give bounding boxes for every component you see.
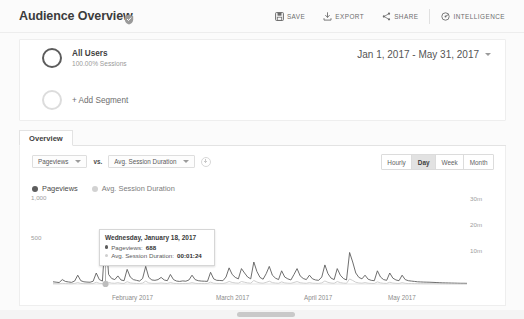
save-icon (275, 12, 284, 21)
add-segment-button[interactable]: + Add Segment (42, 90, 128, 110)
tab-overview-label: Overview (29, 134, 63, 143)
export-button[interactable]: EXPORT (314, 12, 373, 21)
legend-item-pageviews[interactable]: Pageviews (32, 184, 78, 193)
segment-bar: All Users 100.00% Sessions + Add Segment… (19, 39, 506, 121)
granularity-week[interactable]: Week (436, 155, 464, 169)
date-range-label: Jan 1, 2017 - May 31, 2017 (357, 49, 479, 60)
tab-strip: Overview (19, 130, 506, 146)
tooltip-duration-label: Avg. Session Duration: (111, 252, 174, 259)
tooltip-dot-pageviews-icon (105, 245, 108, 248)
granularity-month[interactable]: Month (464, 155, 493, 169)
intelligence-icon (441, 12, 450, 21)
save-button[interactable]: SAVE (266, 12, 314, 21)
shield-icon (124, 11, 134, 22)
share-button[interactable]: SHARE (373, 12, 427, 21)
intelligence-label: INTELLIGENCE (453, 13, 505, 20)
chart-legend: Pageviews Avg. Session Duration (32, 184, 175, 193)
segment-name: All Users (72, 48, 127, 59)
tooltip-dot-duration-icon (105, 254, 108, 257)
granularity-group: Hourly Day Week Month (381, 154, 494, 170)
tooltip-row-pageviews: Pageviews: 688 (105, 244, 209, 251)
scrollbar-thumb[interactable] (237, 312, 295, 317)
horizontal-scrollbar[interactable] (0, 310, 524, 319)
tooltip-date: Wednesday, January 18, 2017 (105, 234, 209, 241)
legend-dot-pageviews-icon (32, 186, 38, 192)
segment-all-users[interactable]: All Users 100.00% Sessions (42, 48, 127, 69)
primary-metric-select[interactable]: Pageviews (32, 155, 87, 168)
analytics-page: Audience Overview SAVE (0, 0, 524, 319)
x-axis-tick-april: April 2017 (304, 294, 332, 301)
tooltip-row-duration: Avg. Session Duration: 00:01:24 (105, 252, 209, 259)
share-label: SHARE (394, 13, 418, 20)
granularity-day[interactable]: Day (412, 155, 436, 169)
chart-panel: Pageviews vs. Avg. Session Duration Hour… (19, 146, 506, 306)
secondary-metric-label: Avg. Session Duration (114, 158, 176, 165)
tooltip-pageviews-label: Pageviews: (111, 244, 143, 251)
add-segment-label: + Add Segment (72, 96, 128, 105)
header-actions: SAVE EXPORT (266, 8, 514, 25)
export-icon (323, 12, 332, 21)
tooltip-pageviews-value: 688 (146, 244, 156, 251)
primary-metric-label: Pageviews (38, 158, 68, 165)
segment-all-users-text: All Users 100.00% Sessions (72, 48, 127, 69)
chart-svg (20, 194, 507, 294)
header-divider (429, 9, 430, 24)
x-axis: February 2017 March 2017 April 2017 May … (20, 294, 507, 306)
chevron-down-icon (75, 160, 81, 163)
date-range-picker[interactable]: Jan 1, 2017 - May 31, 2017 (357, 49, 491, 60)
x-axis-tick-february: February 2017 (112, 294, 153, 301)
tab-overview[interactable]: Overview (19, 130, 73, 146)
export-label: EXPORT (335, 13, 364, 20)
chevron-down-icon (183, 160, 189, 163)
page-title: Audience Overview (19, 9, 133, 23)
x-axis-tick-may: May 2017 (388, 294, 416, 301)
secondary-metric-select[interactable]: Avg. Session Duration (108, 155, 195, 168)
vs-label: vs. (93, 158, 102, 165)
legend-item-avg-session-duration[interactable]: Avg. Session Duration (92, 184, 175, 193)
x-axis-tick-march: March 2017 (216, 294, 249, 301)
plus-circle-icon[interactable] (201, 157, 211, 167)
plot-area[interactable]: 1,000 500 30m 20m 10m (20, 194, 507, 294)
intelligence-button[interactable]: INTELLIGENCE (432, 12, 514, 21)
chevron-down-icon (485, 53, 491, 56)
add-segment-ring-icon (42, 90, 62, 110)
granularity-hourly[interactable]: Hourly (382, 155, 412, 169)
metric-selector-row: Pageviews vs. Avg. Session Duration (32, 155, 211, 168)
chart-tooltip: Wednesday, January 18, 2017 Pageviews: 6… (99, 229, 215, 266)
legend-label-avg-session-duration: Avg. Session Duration (102, 184, 175, 193)
share-icon (382, 12, 391, 21)
legend-dot-duration-icon (92, 186, 98, 192)
segment-sessions-pct: 100.00% Sessions (72, 60, 127, 69)
save-label: SAVE (287, 13, 305, 20)
legend-label-pageviews: Pageviews (42, 184, 78, 193)
segment-ring-icon (42, 48, 62, 68)
page-header: Audience Overview SAVE (0, 0, 524, 33)
highlight-point-base[interactable] (102, 281, 108, 287)
tooltip-duration-value: 00:01:24 (177, 252, 202, 259)
